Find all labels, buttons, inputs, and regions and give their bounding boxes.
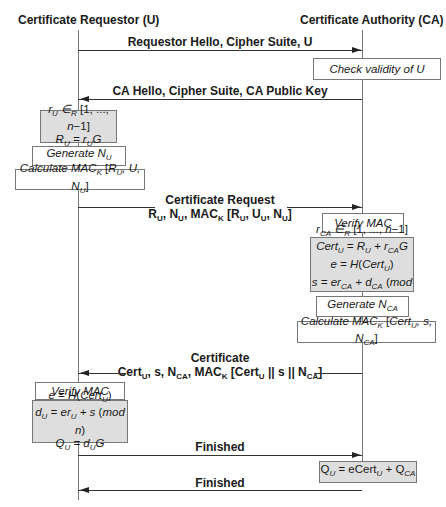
- message-certificate: Certificate CertU, s, NCA, MACK [CertU |…: [78, 351, 362, 384]
- step-calculate-mac-u: Calculate MACK [RU, U, NU]: [15, 169, 145, 190]
- arrow-ca-hello: [78, 99, 362, 100]
- arrowhead-left-icon: [80, 370, 89, 376]
- arrow-finished-1: [78, 455, 362, 456]
- arrow-certificate-request-b: [287, 207, 362, 208]
- arrow-requestor-hello: [78, 50, 362, 51]
- message-certificate-request: Certificate Request RU, NU, MACK [RU, UU…: [78, 193, 362, 226]
- arrowhead-left-icon: [80, 96, 89, 102]
- arrowhead-right-icon: [352, 204, 361, 210]
- arrow-finished-2: [78, 490, 362, 491]
- arrowhead-right-icon: [352, 452, 361, 458]
- message-finished-2: Finished: [78, 476, 362, 490]
- step-ca-issue-cert: rCA ∈R [1, ..., n−1] CertU = RU + rCAG e…: [310, 237, 414, 292]
- message-finished-1: Finished: [78, 440, 362, 454]
- arrowhead-right-icon: [352, 47, 361, 53]
- message-requestor-hello: Requestor Hello, Cipher Suite, U: [78, 35, 362, 49]
- arrowhead-left-icon: [80, 487, 89, 493]
- arrow-certificate-request-a: [78, 207, 155, 208]
- step-check-validity: Check validity of U: [313, 58, 441, 80]
- arrow-certificate-b: [314, 373, 362, 374]
- step-generate-ru: rU ∈R [1, ..., n−1] RU = rUG: [40, 110, 117, 143]
- message-ca-hello: CA Hello, Cipher Suite, CA Public Key: [78, 84, 362, 98]
- step-u-compute-key: e = H(CertU) dU = erU + s (mod n) QU = d…: [32, 400, 128, 443]
- step-calculate-mac-ca: Calculate MACK [CertU, s, NCA]: [297, 321, 436, 343]
- actor-requestor: Certificate Requestor (U): [18, 13, 159, 27]
- actor-ca: Certificate Authority (CA): [300, 13, 444, 27]
